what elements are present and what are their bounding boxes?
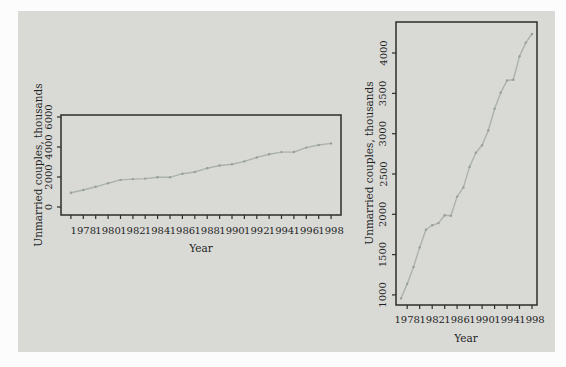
data-point — [70, 192, 72, 194]
left-axis-ticks: 1978198019821984198619881990199219941996… — [43, 104, 344, 236]
data-point — [468, 166, 470, 168]
data-point — [462, 186, 464, 188]
y-tick-label: 3000 — [378, 121, 389, 146]
data-point — [330, 142, 332, 144]
data-point — [481, 144, 483, 146]
data-point — [218, 164, 220, 166]
x-tick-label: 1978 — [394, 314, 419, 325]
right-data-series — [400, 33, 533, 300]
data-point — [318, 144, 320, 146]
data-point — [425, 229, 427, 231]
data-point — [406, 283, 408, 285]
y-tick-label: 1500 — [378, 242, 389, 267]
y-tick-label: 3500 — [378, 81, 389, 106]
data-point — [450, 215, 452, 217]
data-point — [243, 160, 245, 162]
right-x-axis-label: Year — [453, 332, 478, 344]
data-point — [293, 151, 295, 153]
data-point — [156, 176, 158, 178]
data-point — [231, 163, 233, 165]
data-point — [132, 178, 134, 180]
right-axis-ticks: 1978198219861990199419981000150020002500… — [378, 40, 545, 325]
data-point — [194, 171, 196, 173]
left-y-axis-label: Unmarried couples, thousands — [32, 83, 44, 246]
x-tick-label: 1998 — [519, 314, 544, 325]
data-point — [419, 246, 421, 248]
data-point — [256, 156, 258, 158]
data-point — [144, 177, 146, 179]
data-point — [475, 152, 477, 154]
y-tick-label: 2000 — [378, 202, 389, 227]
x-tick-label: 1994 — [494, 314, 519, 325]
data-point — [95, 186, 97, 188]
data-line — [71, 143, 331, 192]
data-point — [181, 173, 183, 175]
y-tick-label: 1000 — [378, 282, 389, 307]
right-chart: 1978198219861990199419981000150020002500… — [363, 22, 545, 344]
data-point — [437, 222, 439, 224]
left-x-axis-label: Year — [188, 242, 213, 254]
data-point — [412, 266, 414, 268]
y-tick-label: 4000 — [43, 134, 54, 159]
x-tick-label: 1980 — [95, 225, 120, 236]
y-tick-label: 2000 — [43, 164, 54, 189]
data-point — [531, 33, 533, 35]
left-chart: 1978198019821984198619881990199219941996… — [32, 83, 344, 254]
data-point — [444, 214, 446, 216]
x-tick-label: 1990 — [219, 225, 244, 236]
y-tick-label: 2500 — [378, 161, 389, 186]
data-line — [401, 34, 532, 298]
figure-canvas: 1978198019821984198619881990199219941996… — [0, 0, 566, 367]
data-point — [500, 91, 502, 93]
data-point — [268, 153, 270, 155]
data-point — [431, 224, 433, 226]
y-tick-label: 0 — [43, 204, 54, 210]
y-tick-label: 6000 — [43, 104, 54, 129]
data-point — [487, 129, 489, 131]
x-tick-label: 1998 — [318, 225, 343, 236]
y-tick-label: 4000 — [378, 40, 389, 65]
data-point — [280, 151, 282, 153]
x-tick-label: 1986 — [444, 314, 469, 325]
x-tick-label: 1984 — [145, 225, 170, 236]
data-point — [506, 79, 508, 81]
data-point — [518, 55, 520, 57]
data-point — [400, 297, 402, 299]
x-tick-label: 1988 — [194, 225, 219, 236]
data-point — [169, 176, 171, 178]
left-data-series — [70, 142, 333, 194]
data-point — [107, 182, 109, 184]
x-tick-label: 1982 — [120, 225, 145, 236]
charts-svg: 1978198019821984198619881990199219941996… — [0, 0, 566, 367]
data-point — [206, 167, 208, 169]
data-point — [119, 179, 121, 181]
right-plot-box — [396, 22, 537, 305]
data-point — [305, 146, 307, 148]
x-tick-label: 1996 — [294, 225, 319, 236]
data-point — [525, 41, 527, 43]
x-tick-label: 1978 — [71, 225, 96, 236]
data-point — [456, 195, 458, 197]
data-point — [512, 79, 514, 81]
x-tick-label: 1986 — [170, 225, 195, 236]
x-tick-label: 1990 — [469, 314, 494, 325]
data-point — [82, 189, 84, 191]
x-tick-label: 1982 — [419, 314, 444, 325]
x-tick-label: 1994 — [269, 225, 294, 236]
right-y-axis-label: Unmarried couples, thousands — [363, 81, 375, 244]
data-point — [493, 108, 495, 110]
left-plot-box — [61, 115, 341, 215]
x-tick-label: 1992 — [244, 225, 269, 236]
